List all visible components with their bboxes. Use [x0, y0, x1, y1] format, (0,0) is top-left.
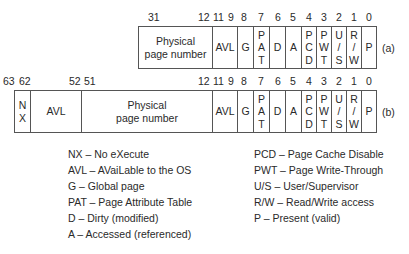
field-label: U [335, 93, 343, 106]
field-label: W [319, 41, 329, 54]
field-label: U [335, 29, 343, 42]
legend-item-d: D – Dirty (modified) [68, 210, 192, 226]
legend-left: NX – No eXecute AVL – AVaiLable to the O… [68, 146, 192, 242]
bit-number: 8 [241, 75, 247, 87]
bit-number: 1 [351, 75, 357, 87]
row-b-tag: (b) [382, 106, 395, 118]
field-avl-high: AVL [30, 90, 81, 133]
legend-item-p: P – Present (valid) [254, 210, 384, 226]
field-label: D [274, 41, 282, 54]
legend-item-pcd: PCD – Page Cache Disable [254, 146, 384, 162]
field-label: D [305, 54, 313, 67]
field-label: A [258, 41, 265, 54]
field-label: page number [116, 112, 178, 125]
row-a-tag: (a) [382, 42, 395, 54]
bit-number: 63 [3, 75, 15, 87]
bit-number: 9 [228, 11, 234, 23]
bit-number: 12 [198, 11, 210, 23]
field-label: G [241, 41, 249, 54]
field-label: P [320, 93, 327, 106]
legend-item-a: A – Accessed (referenced) [68, 226, 192, 242]
field-label: C [305, 105, 313, 118]
legend-item-pat: PAT – Page Attribute Table [68, 194, 192, 210]
field-label: page number [145, 48, 207, 61]
field-label: R [350, 29, 358, 42]
field-label: / [338, 41, 341, 54]
legend-right: PCD – Page Cache Disable PWT – Page Writ… [254, 146, 384, 226]
bit-number: 51 [84, 75, 96, 87]
field-label: AVL [215, 105, 234, 118]
field-us: U/S [331, 26, 346, 69]
legend-item-avl: AVL – AVaiLable to the OS [68, 162, 192, 178]
field-pcd: PCD [301, 90, 316, 133]
field-label: G [241, 105, 249, 118]
field-label: P [258, 29, 265, 42]
bit-number: 0 [366, 75, 372, 87]
field-label: W [349, 118, 359, 131]
field-label: / [353, 105, 356, 118]
bit-number: 7 [258, 11, 264, 23]
bit-number: 3 [321, 11, 327, 23]
field-label: Physical [127, 99, 166, 112]
field-label: P [365, 41, 372, 54]
field-label: D [274, 105, 282, 118]
field-rw: R/W [346, 26, 361, 69]
bit-number: 0 [366, 11, 372, 23]
field-label: AVL [46, 105, 65, 118]
field-p: P [361, 90, 377, 133]
bit-number: 2 [336, 11, 342, 23]
field-label: AVL [215, 41, 234, 54]
field-label: P [365, 105, 372, 118]
field-label: D [305, 118, 313, 131]
field-label: S [335, 118, 342, 131]
field-avl: AVL [212, 90, 237, 133]
field-label: W [319, 105, 329, 118]
field-label: P [258, 93, 265, 106]
field-label: W [349, 54, 359, 67]
field-label: N [19, 99, 27, 112]
field-us: U/S [331, 90, 346, 133]
field-rw: R/W [346, 90, 361, 133]
page-table-entry-64bit: NXAVLPhysicalpage numberAVLGPATDAPCDPWTU… [0, 90, 409, 133]
page-table-entry-32bit: Physicalpage numberAVLGPATDAPCDPWTU/SR/W… [0, 26, 409, 69]
field-label: T [321, 54, 327, 67]
field-label: T [321, 118, 327, 131]
field-label: T [258, 54, 264, 67]
bit-number: 5 [290, 75, 296, 87]
field-label: R [350, 93, 358, 106]
field-nx: NX [14, 90, 30, 133]
field-g: G [237, 26, 253, 69]
field-label: Physical [156, 35, 195, 48]
bit-number: 6 [275, 75, 281, 87]
field-p: P [361, 26, 377, 69]
field-pcd: PCD [301, 26, 316, 69]
bit-number: 4 [306, 11, 312, 23]
field-label: C [305, 41, 313, 54]
field-label: / [353, 41, 356, 54]
field-g: G [237, 90, 253, 133]
field-label: P [305, 93, 312, 106]
bit-number: 3 [321, 75, 327, 87]
field-a: A [285, 90, 301, 133]
field-d: D [269, 26, 285, 69]
bit-number: 7 [258, 75, 264, 87]
bit-number: 11 [213, 75, 224, 87]
field-pat: PAT [253, 26, 269, 69]
field-pwt: PWT [316, 90, 331, 133]
field-label: / [338, 105, 341, 118]
bit-number: 2 [336, 75, 342, 87]
field-physical-page-number: Physicalpage number [138, 26, 212, 69]
bit-number: 4 [306, 75, 312, 87]
field-pwt: PWT [316, 26, 331, 69]
bit-number: 9 [228, 75, 234, 87]
field-label: T [258, 118, 264, 131]
bit-number: 6 [275, 11, 281, 23]
bit-number: 11 [213, 11, 224, 23]
bit-number: 62 [19, 75, 31, 87]
bit-number: 12 [198, 75, 210, 87]
field-label: X [19, 112, 26, 125]
field-label: S [335, 54, 342, 67]
field-label: P [320, 29, 327, 42]
legend-item-rw: R/W – Read/Write access [254, 194, 384, 210]
field-d: D [269, 90, 285, 133]
